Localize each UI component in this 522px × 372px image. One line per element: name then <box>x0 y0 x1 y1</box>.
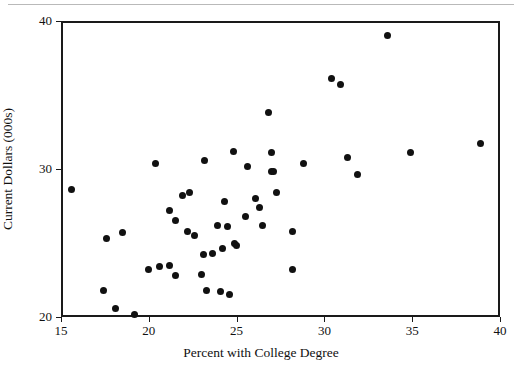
y-axis-label: Current Dollars (000s) <box>0 108 16 230</box>
y-tick-mark <box>56 21 61 22</box>
x-tick-mark <box>412 317 413 322</box>
y-tick-label: 40 <box>39 13 52 29</box>
x-tick-mark <box>237 317 238 322</box>
plot-area-frame <box>61 21 500 317</box>
y-tick-label: 30 <box>39 161 52 177</box>
x-tick-label: 20 <box>142 323 155 339</box>
x-tick-label: 25 <box>230 323 243 339</box>
x-tick-label: 15 <box>55 323 68 339</box>
x-tick-mark <box>61 317 62 322</box>
scatter-plot-figure: 152025303540203040 Percent with College … <box>0 0 522 372</box>
x-tick-label: 35 <box>406 323 419 339</box>
x-tick-label: 30 <box>318 323 331 339</box>
page-top-rule <box>8 4 514 5</box>
x-tick-mark <box>324 317 325 322</box>
y-tick-mark <box>56 317 61 318</box>
x-tick-mark <box>500 317 501 322</box>
x-tick-mark <box>149 317 150 322</box>
x-tick-label: 40 <box>494 323 507 339</box>
y-tick-mark <box>56 169 61 170</box>
y-tick-label: 20 <box>39 309 52 325</box>
x-axis-label: Percent with College Degree <box>0 345 522 361</box>
